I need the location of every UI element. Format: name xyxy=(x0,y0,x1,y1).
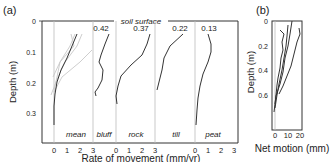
b-ytick-2: 0.4 xyxy=(258,67,268,74)
b-ytick-1: 0.2 xyxy=(258,43,268,50)
panel-b-label: (b) xyxy=(256,4,269,16)
a-ytick-0: 0 xyxy=(32,18,36,25)
sub-name-mean: mean xyxy=(66,130,87,139)
panel-a-label: (a) xyxy=(3,4,16,16)
a-x-label: Rate of movement (mm/yr) xyxy=(82,153,201,162)
a-ytick-3: 0.3 xyxy=(26,110,36,117)
b-xtick-0: 0 xyxy=(273,131,277,140)
a-y-label: Depth (m) xyxy=(7,61,18,103)
peat-surface-value: 0.13 xyxy=(201,24,217,33)
sub-name-bluff: bluff xyxy=(96,130,112,139)
rock-surface-value: 0.37 xyxy=(133,24,149,33)
panel-a-chart: soil surface 0 0.1 0.2 0.3 Depth (m) 0.4… xyxy=(7,17,238,162)
panel-b-chart: 0 0.2 0.4 0.6 Depth (m) 0 10 20 Net moti… xyxy=(245,18,329,154)
a-xtick-g1-0: 0 xyxy=(52,146,56,155)
a-xtick-g3-2: 2 xyxy=(219,146,223,155)
till-surface-value: 0.22 xyxy=(172,24,188,33)
sub-name-peat: peat xyxy=(204,130,221,139)
figure: (a) (b) soil surface 0 0.1 0.2 0.3 Depth… xyxy=(0,0,334,162)
a-ytick-2: 0.2 xyxy=(26,80,36,87)
sub-name-rock: rock xyxy=(128,130,144,139)
b-xtick-1: 10 xyxy=(284,131,292,140)
b-y-label: Depth (m) xyxy=(245,51,256,93)
b-ytick-3: 0.6 xyxy=(258,92,268,99)
b-x-label: Net motion (mm) xyxy=(255,143,329,154)
sub-name-till: till xyxy=(172,130,180,139)
bluff-surface-value: 0.42 xyxy=(93,24,109,33)
a-xtick-g3-3: 3 xyxy=(232,146,236,155)
a-xtick-g1-1: 1 xyxy=(65,146,69,155)
b-xtick-2: 20 xyxy=(296,131,304,140)
b-ytick-0: 0 xyxy=(264,18,268,25)
a-xtick-g3-1: 1 xyxy=(206,146,210,155)
a-ytick-1: 0.1 xyxy=(26,49,36,56)
